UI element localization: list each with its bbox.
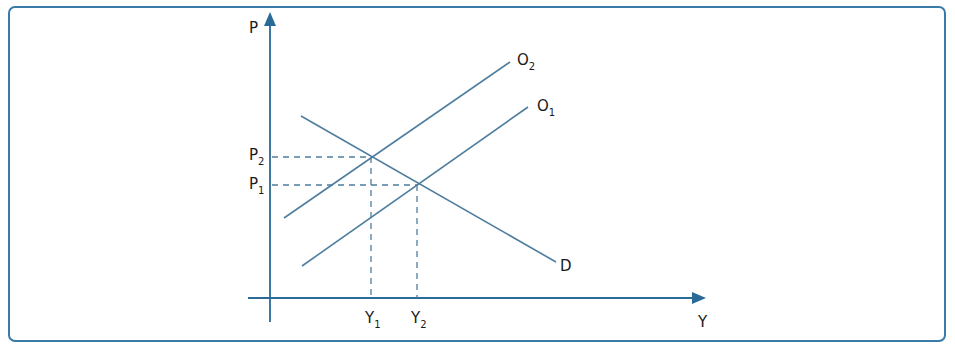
p1-label: P1 — [249, 175, 264, 196]
supply-curve-o2 — [284, 62, 510, 218]
x-axis-label: Y — [697, 313, 708, 331]
supply-curve-o1 — [302, 107, 528, 266]
x-axis-arrow-icon — [692, 292, 706, 304]
y1-label: Y1 — [364, 309, 381, 330]
y-axis-label: P — [249, 19, 258, 37]
p2-label: P2 — [249, 146, 264, 167]
y2-label: Y2 — [410, 309, 427, 330]
d-label: D — [560, 257, 572, 275]
y-axis-arrow-icon — [264, 12, 276, 26]
o1-label: O1 — [537, 97, 555, 118]
o2-label: O2 — [517, 51, 535, 72]
supply-demand-diagram: P Y P2 P1 Y1 Y2 O2 O1 D — [0, 0, 955, 349]
